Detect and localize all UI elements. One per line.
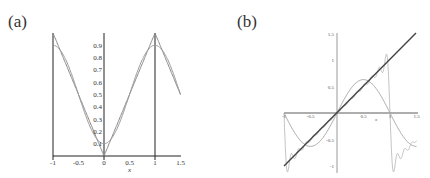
tick-label: 0.5 xyxy=(360,114,367,119)
tick-label: 0.5 xyxy=(328,85,335,90)
tick-labels-b: -1-0.50.511.51.510.5-0.5-1 xyxy=(282,32,420,170)
tick-label: 1.5 xyxy=(176,159,185,167)
tick-label: 0.5 xyxy=(93,91,102,99)
tick-label: 0.4 xyxy=(93,103,102,111)
tick-label: -0.5 xyxy=(307,114,315,119)
x-axis-label-b: x xyxy=(374,117,378,122)
plot-a: -1-0.500.511.50.10.20.30.40.50.60.70.80.… xyxy=(50,33,185,174)
plot-b: -1-0.50.511.51.510.5-0.5-1 x xyxy=(282,32,420,174)
tick-label: 0.9 xyxy=(93,42,102,50)
tick-label: 0.6 xyxy=(93,79,102,87)
tick-label: -1 xyxy=(282,114,287,119)
tick-label: 1.5 xyxy=(328,32,335,37)
tick-label: 1 xyxy=(332,58,335,63)
tick-label: -1 xyxy=(330,164,335,169)
tick-label: 1 xyxy=(153,159,157,167)
tick-label: 0.8 xyxy=(93,54,102,62)
tick-label: 0 xyxy=(102,159,106,167)
tick-label: 0.7 xyxy=(93,66,102,74)
figure-canvas: -1-0.500.511.50.10.20.30.40.50.60.70.80.… xyxy=(0,0,430,178)
tick-label: 0.1 xyxy=(93,140,102,148)
tick-label: 0.3 xyxy=(93,116,102,124)
triangle-curve-a xyxy=(53,33,181,156)
identity-line-b xyxy=(284,33,416,166)
x-axis-label-a: x xyxy=(127,166,132,174)
tick-labels-a: -1-0.500.511.50.10.20.30.40.50.60.70.80.… xyxy=(50,42,185,167)
tick-label: 0.2 xyxy=(93,128,102,136)
smooth-curve-a xyxy=(53,45,181,143)
tick-label: -0.5 xyxy=(73,159,85,167)
tick-label: -0.5 xyxy=(326,138,334,143)
tick-label: -1 xyxy=(50,159,56,167)
tick-label: 1.5 xyxy=(413,114,420,119)
